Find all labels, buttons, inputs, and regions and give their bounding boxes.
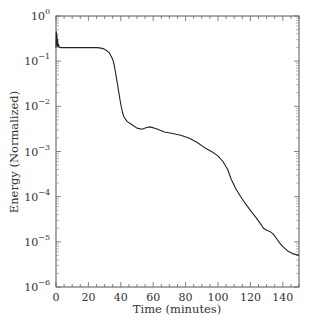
y-axis-title: Energy (Normalized) bbox=[7, 91, 21, 213]
y-axis-tick-labels: 10010−110−210−310−410−510−6 bbox=[24, 7, 50, 294]
y-tick-label: 10−5 bbox=[24, 233, 50, 249]
x-tick-label: 140 bbox=[272, 291, 293, 304]
x-tick-label: 0 bbox=[53, 291, 60, 304]
y-tick-label: 10−1 bbox=[24, 52, 50, 68]
y-tick-label: 10−2 bbox=[24, 97, 50, 113]
y-tick-label: 10−4 bbox=[24, 188, 50, 204]
energy-chart: 020406080100120140 10010−110−210−310−410… bbox=[0, 0, 310, 324]
energy-line bbox=[56, 32, 299, 256]
y-tick-label: 100 bbox=[31, 7, 50, 23]
x-axis-title: Time (minutes) bbox=[133, 302, 221, 316]
plot-frame bbox=[56, 16, 299, 287]
y-tick-label: 10−6 bbox=[24, 278, 50, 294]
y-tick-label: 10−3 bbox=[24, 143, 50, 159]
x-tick-label: 20 bbox=[81, 291, 95, 304]
x-tick-label: 120 bbox=[240, 291, 261, 304]
x-axis-ticks bbox=[56, 16, 299, 287]
x-tick-label: 40 bbox=[114, 291, 128, 304]
y-axis-ticks bbox=[56, 16, 299, 287]
